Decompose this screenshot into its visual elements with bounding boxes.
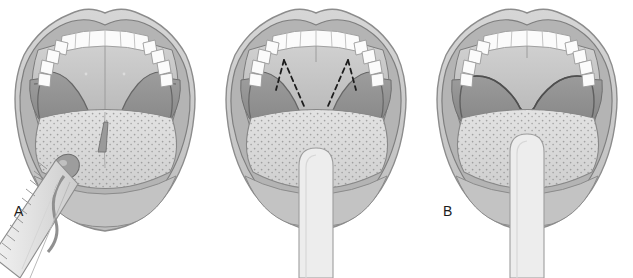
tongue-depressor-c [510,134,544,278]
panel-c-postoperative-result: C [422,0,633,278]
panel-label-a: A [14,204,24,218]
palatal-highlight-a [85,73,88,76]
tongue-depressor-b [299,148,333,278]
panel-b-incision-marking: B [211,0,422,278]
panel-a-injection: A [0,0,211,278]
palatal-highlight-a2 [123,73,126,76]
figure-uppp-sequence: A [0,0,633,278]
